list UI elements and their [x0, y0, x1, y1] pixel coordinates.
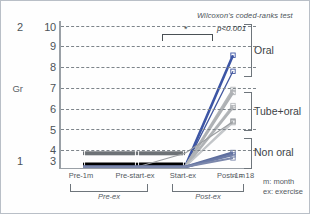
gridline-5 — [61, 129, 256, 130]
tube-oral-bracket — [244, 92, 252, 131]
x-axis-ticks: Pre-1m Pre-start-ex Start-ex Post-1m — [59, 172, 259, 184]
sample-size-label: n = 18 — [232, 171, 254, 180]
non-oral-label: Non oral — [254, 147, 294, 158]
group-axis-bottom-label: 1 — [1, 156, 23, 167]
gridline-6 — [61, 109, 256, 110]
y-tick-9: 9 — [34, 41, 56, 52]
abbreviation-legend: m: month ex: exercise — [263, 177, 303, 197]
series-lines — [59, 21, 249, 169]
low-band — [83, 151, 185, 155]
gridline-7 — [61, 88, 256, 89]
y-axis-ticks: 10 9 8 7 6 5 4 3 — [26, 1, 56, 214]
y-axis-line — [59, 21, 61, 169]
x-tick-pre-start-ex: Pre-start-ex — [115, 172, 154, 180]
significance-bracket — [162, 34, 213, 41]
y-tick-8: 8 — [34, 62, 56, 73]
right-group-brackets: Oral Tube+oral Non oral — [244, 19, 310, 171]
gridline-8 — [61, 67, 256, 68]
plot-area — [59, 21, 244, 169]
p-value-label: p<0.001 — [217, 24, 246, 33]
x-axis-line — [59, 168, 249, 170]
pre-ex-label: Pre-ex — [98, 193, 120, 201]
chart-title: Wilcoxon's coded-ranks test — [197, 11, 293, 20]
tube-oral-label: Tube+oral — [254, 106, 301, 117]
post-ex-label: Post-ex — [195, 193, 220, 201]
y-tick-10: 10 — [34, 22, 56, 33]
group-axis-title: Gr — [1, 84, 23, 94]
y-tick-7: 7 — [34, 83, 56, 94]
y-tick-3: 3 — [34, 156, 56, 167]
oral-label: Oral — [254, 45, 274, 56]
post-ex-bracket — [172, 184, 244, 192]
gridline-9 — [61, 46, 256, 47]
bottom-group-brackets: Pre-ex Post-ex — [59, 184, 259, 208]
group-axis-top-label: 2 — [1, 22, 23, 33]
y-tick-5: 5 — [34, 125, 56, 136]
significance-star: * — [184, 25, 188, 34]
x-tick-start-ex: Start-ex — [170, 172, 196, 180]
chart-figure: 2 Gr 1 10 9 8 7 6 5 4 3 Pre-1m Pre-start… — [0, 0, 310, 214]
abbrev-month: m: month — [263, 177, 303, 187]
x-tick-pre-1m: Pre-1m — [69, 172, 94, 180]
pre-ex-bracket — [70, 184, 148, 192]
abbrev-exercise: ex: exercise — [263, 187, 303, 197]
y-tick-6: 6 — [34, 104, 56, 115]
group-axis: 2 Gr 1 — [1, 1, 25, 214]
non-oral-bracket — [244, 138, 252, 169]
gridline-4 — [61, 150, 256, 151]
